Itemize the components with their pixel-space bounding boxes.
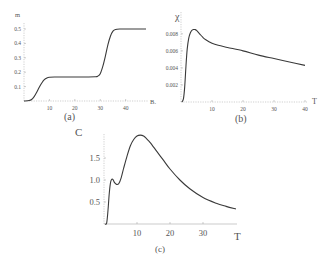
y-tick-label: 0.3 (14, 55, 21, 61)
y-tick-label: 0.5 (14, 26, 21, 32)
panel-a-y-label: m (15, 11, 20, 18)
y-tick-label: 0.1 (14, 84, 21, 90)
x-tick-label: 30 (199, 228, 208, 238)
panel-c-specific-heat-plot: 102030 0.51.01.5 C T (c) (75, 126, 241, 254)
y-tick-label: 1.5 (89, 153, 100, 163)
x-tick-label: 20 (166, 228, 175, 238)
panel-c-x-ticks: 102030 (133, 222, 208, 238)
panel-b-curve (182, 29, 305, 102)
y-tick-label: 0.002 (166, 82, 179, 88)
y-tick-label: 0.004 (166, 65, 179, 71)
x-tick-label: 10 (47, 105, 53, 111)
y-tick-label: 0.006 (166, 48, 179, 54)
y-tick-label: 0.008 (166, 31, 179, 37)
y-tick-label: 0.2 (14, 69, 21, 75)
x-tick-label: 40 (123, 105, 129, 111)
panel-b-y-ticks: 0.0020.0040.0060.008 (166, 31, 183, 88)
panel-b-y-label: χ (174, 11, 180, 22)
y-tick-label: 1.0 (89, 175, 100, 185)
x-tick-label: 10 (209, 106, 215, 112)
panel-c-y-ticks: 0.51.01.5 (89, 153, 106, 207)
panel-a-x-label: Bₓ (150, 98, 156, 105)
x-tick-label: 40 (302, 106, 308, 112)
x-tick-label: 30 (98, 105, 104, 111)
panel-a-caption: (a) (64, 111, 75, 123)
panel-a-magnetization-plot: 10203040 0.10.20.30.40.5 m Bₓ (a) (14, 11, 156, 123)
panel-c-caption: (c) (155, 244, 165, 254)
panel-c-curve (105, 135, 236, 224)
panel-c-y-label: C (75, 126, 82, 138)
panel-a-curve (24, 29, 146, 101)
x-tick-label: 30 (271, 106, 277, 112)
y-tick-label: 0.5 (89, 197, 100, 207)
panel-b-caption: (b) (235, 113, 247, 125)
y-tick-label: 0.4 (14, 40, 21, 46)
panel-c-x-label: T (234, 230, 241, 242)
panel-b-susceptibility-plot: 10203040 0.0020.0040.0060.008 χ T (b) (166, 11, 317, 125)
figure: 10203040 0.10.20.30.40.5 m Bₓ (a) 102030… (0, 0, 327, 261)
x-tick-label: 10 (133, 228, 142, 238)
x-tick-label: 20 (240, 106, 246, 112)
panel-b-x-label: T (312, 97, 317, 106)
